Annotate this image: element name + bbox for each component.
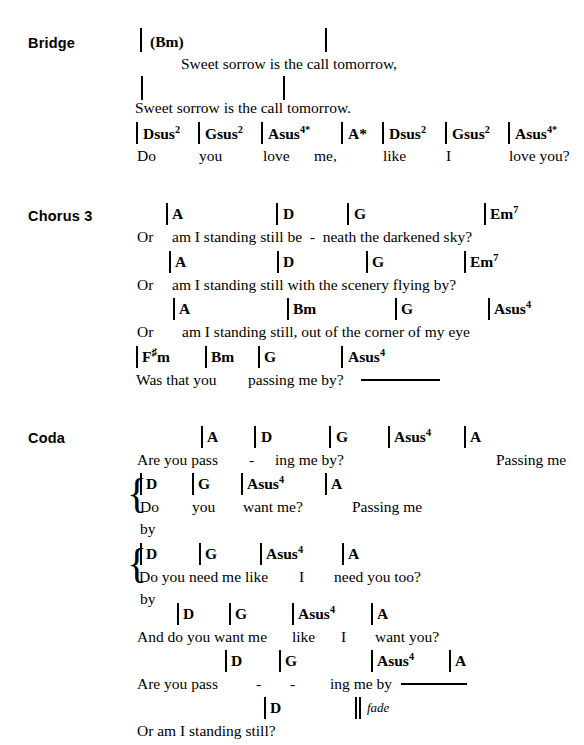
barline (325, 473, 327, 495)
chord-symbol: Asus4 (377, 653, 414, 669)
chord-extension: 4* (547, 124, 557, 135)
lyric-fragment: me, (314, 148, 337, 164)
lyric-fragment: Or (137, 324, 153, 340)
chord-root: Asus (298, 605, 330, 622)
barline (136, 346, 138, 368)
chord-root: Asus (394, 428, 426, 445)
chord-symbol: Asus4 (394, 429, 431, 445)
chord-root: G (285, 652, 297, 669)
lyric-fragment: - (256, 676, 261, 692)
barline (342, 543, 344, 565)
chord-symbol: D (183, 606, 194, 622)
chord-symbol: (Bm) (150, 34, 184, 50)
barline (283, 76, 285, 100)
chord-symbol: G (372, 254, 384, 270)
barline (445, 122, 447, 144)
lyric-fragment: Do (137, 148, 156, 164)
chord-root: A (175, 253, 186, 270)
barline (177, 603, 179, 625)
chord-extension: 2 (421, 124, 426, 135)
lyric-line: Sweet sorrow is the call tomorrow, (181, 56, 397, 72)
chord-root: A (455, 652, 466, 669)
chord-symbol: Asus4 (348, 349, 385, 365)
chord-symbol: D (146, 476, 157, 492)
lyric-fragment: I (446, 148, 451, 164)
barline (508, 122, 510, 144)
chord-symbol: D (283, 254, 294, 270)
lyric-fragment: want me? (243, 499, 303, 515)
chord-symbol: Gsus2 (452, 126, 490, 142)
lyric-fragment: Passing me (352, 499, 422, 515)
chord-root: D (270, 699, 281, 716)
chord-extension: 2 (175, 124, 180, 135)
barline (201, 426, 203, 448)
chord-root: Asus (266, 545, 298, 562)
barline (371, 650, 373, 672)
barline (225, 650, 227, 672)
lyric-fragment: need you too? (334, 569, 421, 585)
chord-root: A* (348, 125, 367, 142)
chord-extension: 2 (485, 124, 490, 135)
chord-root: D (183, 605, 194, 622)
chord-root: Gsus (205, 125, 238, 142)
chord-root: D (283, 253, 294, 270)
section-label-chorus-3: Chorus 3 (28, 208, 92, 224)
chord-symbol: Em7 (490, 206, 518, 222)
lyric-fragment: Or (137, 229, 153, 245)
chord-root: A (470, 428, 481, 445)
chord-extension: 4 (330, 604, 335, 615)
chord-root: A (207, 428, 218, 445)
chord-root: A (172, 205, 183, 222)
lyric-fragment: like (292, 629, 315, 645)
chord-symbol: G (198, 476, 210, 492)
lyric-fragment: you (199, 148, 222, 164)
lyric-line: Sweet sorrow is the call tomorrow. (135, 100, 351, 116)
lyric-fragment: love you? (509, 148, 570, 164)
chord-symbol: A (179, 301, 190, 317)
chord-root: G (354, 205, 366, 222)
barline (488, 298, 490, 320)
barline (260, 543, 262, 565)
chord-symbol: D (283, 206, 294, 222)
chord-root: D (146, 475, 157, 492)
chord-symbol: Asus4 (266, 546, 303, 562)
chord-root: G (235, 605, 247, 622)
lyric-fragment: Or (137, 277, 153, 293)
lyric-fragment: am I standing still with the scenery fly… (172, 277, 456, 293)
chord-symbol: G (401, 301, 413, 317)
chord-root: G (205, 545, 217, 562)
barline (395, 298, 397, 320)
held-note-line (361, 379, 440, 381)
chord-symbol: A (207, 429, 218, 445)
chord-extension: 4 (298, 544, 303, 555)
chord-symbol: Asus4* (515, 126, 557, 142)
chord-symbol: A (377, 606, 388, 622)
chord-extension: 7 (513, 204, 518, 215)
chord-root: Asus (377, 652, 409, 669)
chord-root: A (348, 545, 359, 562)
chord-extension: 4 (526, 299, 531, 310)
barline (264, 697, 266, 719)
barline (261, 122, 263, 144)
barline (166, 203, 168, 225)
chord-quality: m (157, 348, 170, 365)
chord-extension: 4* (300, 124, 310, 135)
chord-symbol: Gsus2 (205, 126, 243, 142)
chord-symbol: G (264, 349, 276, 365)
lyric-fragment: love (263, 148, 290, 164)
chord-root: Em (490, 205, 513, 222)
chord-symbol: A* (348, 126, 367, 142)
section-label-coda: Coda (28, 430, 65, 446)
chord-symbol: D (261, 429, 272, 445)
chord-extension: 4 (279, 474, 284, 485)
chord-root: (Bm) (150, 33, 184, 50)
barline (484, 203, 486, 225)
chord-symbol: Asus4 (298, 606, 335, 622)
chord-root: G (401, 300, 413, 317)
chord-symbol: F♯m (142, 349, 170, 365)
chord-symbol: Bm (211, 349, 234, 365)
chord-root: Asus (247, 475, 279, 492)
barline (277, 251, 279, 273)
lyric-fragment: am I standing still, out of the corner o… (182, 324, 470, 340)
chord-symbol: Asus4 (494, 301, 531, 317)
